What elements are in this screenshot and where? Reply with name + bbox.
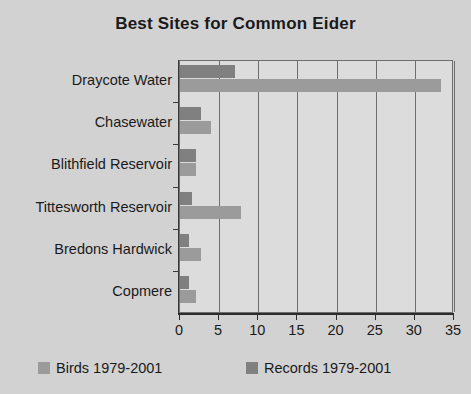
chart-legend: Birds 1979-2001 Records 1979-2001 <box>0 358 471 384</box>
legend-item-records[interactable]: Records 1979-2001 <box>246 360 391 376</box>
y-tick-5 <box>173 271 179 272</box>
chart-title: Best Sites for Common Eider <box>0 14 471 34</box>
x-tick-20 <box>336 315 337 320</box>
gridline-x-25 <box>376 61 377 312</box>
legend-swatch-records-icon <box>246 362 258 374</box>
x-tick-30 <box>414 315 415 320</box>
gridline-x-15 <box>297 61 298 312</box>
y-axis-label-1: Chasewater <box>0 114 172 130</box>
y-axis-label-4: Bredons Hardwick <box>0 241 172 257</box>
x-tick-35 <box>453 315 454 320</box>
x-axis-label-35: 35 <box>438 322 468 338</box>
x-axis-label-0: 0 <box>164 322 194 338</box>
gridline-x-10 <box>258 61 259 312</box>
x-axis-label-5: 5 <box>203 322 233 338</box>
bar-records-0 <box>180 65 235 78</box>
legend-label-birds: Birds 1979-2001 <box>56 360 162 376</box>
gridline-x-35 <box>454 61 455 312</box>
bar-records-3 <box>180 192 192 205</box>
y-axis-label-5: Copmere <box>0 283 172 299</box>
x-tick-25 <box>375 315 376 320</box>
bar-records-2 <box>180 149 196 162</box>
gridline-x-5 <box>219 61 220 312</box>
legend-label-records: Records 1979-2001 <box>264 360 391 376</box>
y-axis-label-0: Draycote Water <box>0 72 172 88</box>
x-tick-5 <box>218 315 219 320</box>
y-axis-label-3: Tittesworth Reservoir <box>0 199 172 215</box>
x-tick-0 <box>179 315 180 320</box>
bar-records-5 <box>180 276 189 289</box>
y-tick-2 <box>173 144 179 145</box>
bar-birds-4 <box>180 248 201 261</box>
chart-container: Best Sites for Common Eider Draycote Wat… <box>0 0 471 394</box>
x-tick-15 <box>296 315 297 320</box>
y-tick-1 <box>173 102 179 103</box>
bar-records-1 <box>180 107 201 120</box>
gridline-x-20 <box>337 61 338 312</box>
y-axis-label-group: Draycote WaterChasewaterBlithfield Reser… <box>0 60 172 313</box>
x-axis-label-10: 10 <box>242 322 272 338</box>
gridline-x-30 <box>415 61 416 312</box>
x-axis-line <box>178 313 454 315</box>
bar-birds-3 <box>180 206 241 219</box>
bar-birds-1 <box>180 121 211 134</box>
x-axis-label-30: 30 <box>399 322 429 338</box>
legend-item-birds[interactable]: Birds 1979-2001 <box>38 360 162 376</box>
x-axis-label-25: 25 <box>360 322 390 338</box>
x-axis-label-20: 20 <box>321 322 351 338</box>
legend-swatch-birds-icon <box>38 362 50 374</box>
bar-birds-0 <box>180 79 441 92</box>
bar-records-4 <box>180 234 189 247</box>
x-tick-10 <box>257 315 258 320</box>
bar-birds-2 <box>180 163 196 176</box>
bar-birds-5 <box>180 290 196 303</box>
plot-area <box>179 60 453 313</box>
x-axis-label-15: 15 <box>281 322 311 338</box>
y-tick-3 <box>173 187 179 188</box>
y-axis-label-2: Blithfield Reservoir <box>0 156 172 172</box>
y-tick-4 <box>173 229 179 230</box>
